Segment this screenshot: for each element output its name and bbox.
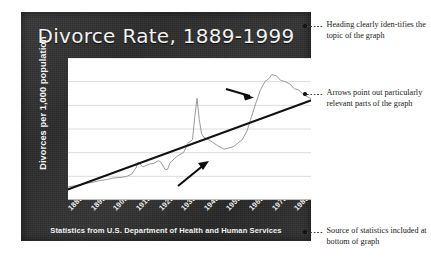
divorce-rate-line bbox=[68, 75, 311, 187]
leader-line-icon bbox=[307, 26, 324, 27]
callout-arrows: Arrows point out particularly relevant p… bbox=[303, 88, 431, 109]
leader-line-icon bbox=[307, 94, 324, 95]
callout-heading-text: Heading clearly iden-tifies the topic of… bbox=[327, 20, 431, 41]
gridlines bbox=[68, 58, 311, 200]
callout-source: Source of statistics included at bottom … bbox=[303, 226, 431, 247]
chart-panel: Divorce Rate, 1889-1999 Divorces per 1,0… bbox=[21, 12, 311, 241]
plot-area bbox=[68, 58, 311, 200]
callout-heading: Heading clearly iden-tifies the topic of… bbox=[303, 20, 431, 41]
leader-line-icon bbox=[307, 232, 324, 233]
plot-svg bbox=[68, 58, 311, 200]
callout-source-text: Source of statistics included at bottom … bbox=[327, 226, 431, 247]
arrow-lower-icon bbox=[178, 161, 209, 186]
callout-arrows-text: Arrows point out particularly relevant p… bbox=[327, 88, 431, 109]
source-caption: Statistics from U.S. Department of Healt… bbox=[21, 226, 311, 235]
arrow-upper-icon bbox=[226, 89, 254, 101]
